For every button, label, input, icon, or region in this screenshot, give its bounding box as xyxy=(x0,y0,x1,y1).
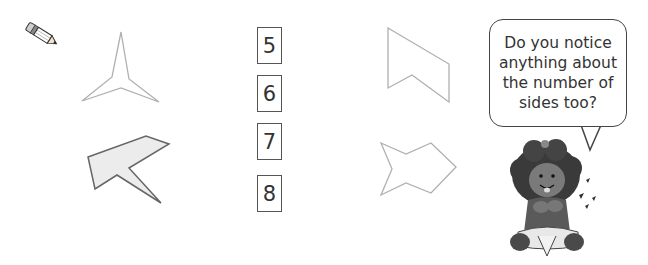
number-label: 6 xyxy=(263,82,276,106)
number-option-7[interactable]: 7 xyxy=(257,123,282,160)
speech-bubble-text: Do you notice anything about the number … xyxy=(493,33,623,113)
pencil-icon xyxy=(25,22,59,48)
number-label: 7 xyxy=(263,130,276,154)
shape-fish xyxy=(381,143,456,195)
number-option-8[interactable]: 8 xyxy=(257,175,282,212)
speech-bubble-tail xyxy=(581,125,601,150)
girl-character xyxy=(510,139,596,256)
shape-flag xyxy=(388,28,449,102)
speech-line: anything about xyxy=(493,53,623,73)
speech-bubble: Do you notice anything about the number … xyxy=(489,19,627,127)
speech-line: the number of xyxy=(493,73,623,93)
speech-line: Do you notice xyxy=(493,33,623,53)
speech-line: sides too? xyxy=(493,93,623,113)
number-label: 5 xyxy=(263,34,276,58)
number-label: 8 xyxy=(263,182,276,206)
shape-star xyxy=(82,32,159,102)
shape-arrow xyxy=(88,136,169,203)
number-option-6[interactable]: 6 xyxy=(257,75,282,112)
number-option-5[interactable]: 5 xyxy=(257,27,282,64)
